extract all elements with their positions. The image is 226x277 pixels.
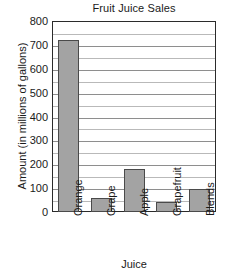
chart-title: Fruit Juice Sales [52, 1, 216, 15]
y-tick-label: 700 [8, 40, 48, 51]
x-tick-label: Blends [205, 182, 216, 216]
x-tick-label: Grapefruit [172, 167, 183, 216]
y-tick-label: 100 [8, 183, 48, 194]
x-axis-title: Juice [52, 258, 216, 271]
y-tick-label: 600 [8, 64, 48, 75]
y-tick-label: 800 [8, 16, 48, 27]
x-tick-label: Apple [139, 188, 150, 216]
y-tick-label: 200 [8, 159, 48, 170]
bar-chart: Fruit Juice Sales Amount (in millions of… [0, 0, 226, 277]
y-tick-label: 300 [8, 135, 48, 146]
y-tick-label: 0 [8, 207, 48, 218]
x-tick-label: Orange [73, 179, 84, 216]
y-tick-label: 500 [8, 88, 48, 99]
y-tick-label: 400 [8, 112, 48, 123]
x-tick-label: Grape [106, 185, 117, 216]
